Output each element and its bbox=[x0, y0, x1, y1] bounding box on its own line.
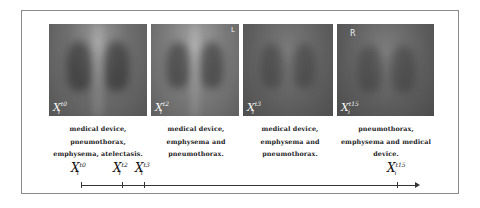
timeline-tick-t0 bbox=[81, 182, 82, 188]
panel-label: Xt0i bbox=[53, 101, 60, 115]
panel-label: Xt15i bbox=[341, 101, 350, 115]
caption-line: emphysema and bbox=[158, 136, 234, 149]
caption-line: pneumothorax. bbox=[158, 148, 234, 161]
timeline-tick-t2 bbox=[122, 182, 123, 188]
timeline-tick-t15 bbox=[397, 182, 398, 188]
side-marker: L bbox=[231, 26, 235, 34]
xray-image-t0: Xt0i bbox=[49, 24, 147, 116]
caption-line: device. bbox=[338, 148, 434, 161]
arrow-right-icon bbox=[415, 182, 420, 188]
side-marker: R bbox=[350, 29, 356, 38]
timeline-label-t0: Xt0i bbox=[71, 162, 79, 176]
xray-image-t3: Xt3i bbox=[243, 24, 333, 116]
timeline-label-t15: Xt15i bbox=[387, 162, 397, 176]
caption-line: medical device, bbox=[252, 123, 328, 136]
timeline-axis bbox=[81, 185, 417, 186]
timeline-label-t3: Xt3i bbox=[135, 162, 143, 176]
caption-line: emphysema and medical bbox=[338, 136, 434, 149]
xray-image-t2: L Xt2i bbox=[151, 24, 239, 116]
caption-line: pneumothorax, bbox=[40, 136, 156, 149]
caption-line: emphysema, atelectasis. bbox=[40, 148, 156, 161]
caption-t2: medical device, emphysema and pneumothor… bbox=[158, 123, 234, 161]
caption-line: pneumothorax, bbox=[338, 123, 434, 136]
timeline-tick-t3 bbox=[144, 182, 145, 188]
caption-t15: pneumothorax, emphysema and medical devi… bbox=[338, 123, 434, 161]
xray-image-t15: R Xt15i bbox=[337, 24, 434, 116]
caption-line: pneumothorax. bbox=[252, 148, 328, 161]
panel-label: Xt3i bbox=[247, 101, 254, 115]
panel-label: Xt2i bbox=[155, 101, 162, 115]
caption-line: emphysema and bbox=[252, 136, 328, 149]
caption-t0: medical device, pneumothorax, emphysema,… bbox=[40, 123, 156, 161]
timeline-label-t2: Xt2i bbox=[113, 162, 121, 176]
caption-t3: medical device, emphysema and pneumothor… bbox=[252, 123, 328, 161]
caption-line: medical device, bbox=[158, 123, 234, 136]
caption-line: medical device, bbox=[40, 123, 156, 136]
